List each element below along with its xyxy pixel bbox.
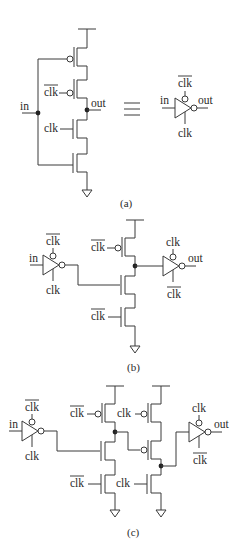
out-label: out (214, 418, 230, 430)
sym-in-label: in (160, 94, 169, 106)
n2-clk-label: clk (116, 477, 130, 489)
inv1-clk-label: clk (25, 450, 39, 462)
clk-label: clk (44, 122, 58, 134)
inv1-clkbar-label: clk (46, 235, 60, 247)
pmos-clkbar-transistor (107, 237, 135, 257)
n1-clkbar-label: clk (70, 477, 84, 489)
equivalence-icon (124, 103, 140, 115)
ground-symbol (110, 510, 120, 517)
pmos2-data-transistor (141, 440, 161, 460)
inv1-clk-label: clk (46, 284, 60, 296)
pmos-clkbar-transistor (59, 79, 87, 99)
caption-a: (a) (120, 197, 133, 210)
ground-symbol (82, 190, 92, 197)
clkbar-label: clk (44, 86, 58, 98)
nmos-data-transistor (121, 275, 135, 295)
p2-clk-label: clk (117, 407, 131, 419)
out-label: out (91, 97, 107, 109)
inv2-clk-label: clk (192, 402, 206, 414)
inv2-clkbar-label: clk (167, 288, 181, 300)
pmos-input-transistor (67, 47, 87, 67)
panel-b-flip-flop: clk in clk clk (29, 220, 204, 374)
sym-clk-label: clk (178, 127, 192, 139)
caption-b: (b) (127, 361, 140, 374)
nmos1-clkbar-transistor (88, 474, 115, 494)
inv2-clk-label: clk (166, 236, 180, 248)
panel-c-flip-flop: clk in clk clk (9, 386, 230, 539)
inv2-clkbar-label: clk (193, 454, 207, 466)
pmos-clkbar-label: clk (91, 241, 105, 253)
inv1-clkbar-label: clk (25, 401, 39, 413)
nmos-clk-transistor (60, 119, 87, 139)
nmos-clkbar-label: clk (91, 310, 105, 322)
nmos2-clk-transistor (134, 474, 161, 494)
in-node (36, 111, 41, 116)
pmos1-clkbar-transistor (87, 403, 115, 423)
pmos2-clk-transistor (135, 403, 161, 423)
ground-symbol (156, 510, 166, 517)
circuit-figure: in clk out clk clk in out clk (a) (0, 0, 244, 560)
panel-a-clocked-inverter-transistor: in clk out clk clk in out clk (a) (20, 29, 214, 210)
nmos-input-transistor (73, 153, 87, 173)
sym-out-label: out (198, 94, 214, 106)
ground-symbol (130, 346, 140, 353)
caption-c: (c) (127, 526, 140, 539)
in-label: in (9, 418, 18, 430)
in-label: in (20, 100, 29, 112)
out-label: out (188, 252, 204, 264)
in-label: in (29, 252, 38, 264)
nmos1-data-transistor (101, 441, 115, 461)
nmos-clkbar-transistor (108, 307, 135, 327)
p1-clkbar-label: clk (70, 407, 84, 419)
sym-clkbar-label: clk (178, 77, 192, 89)
